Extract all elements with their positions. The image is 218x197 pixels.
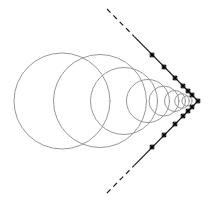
- tangency-cross-mark-icon: [186, 109, 191, 114]
- inscribed-circles-diagram: [0, 0, 218, 197]
- tangency-cross-mark-icon: [186, 89, 191, 94]
- figure-container: [0, 0, 218, 197]
- tangency-cross-mark-icon: [190, 105, 195, 110]
- tangency-cross-mark-icon: [150, 53, 155, 58]
- tangency-cross-mark-icon: [162, 133, 167, 138]
- tangency-cross-mark-icon: [173, 76, 178, 81]
- tangency-cross-mark-icon: [190, 93, 195, 98]
- tangency-cross-mark-icon: [173, 122, 178, 127]
- tangency-cross-mark-icon: [181, 84, 186, 89]
- tangency-cross-mark-icon: [196, 99, 201, 104]
- tangency-cross-mark-icon: [150, 145, 155, 150]
- tangency-cross-mark-icon: [181, 114, 186, 119]
- tangency-cross-mark-icon: [162, 65, 167, 70]
